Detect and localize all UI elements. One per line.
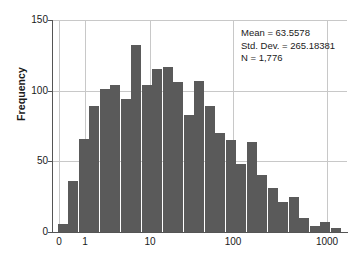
histogram-bar [215,133,225,232]
histogram-bar [131,45,141,232]
histogram-bar [184,115,194,232]
histogram-bar [100,89,110,232]
histogram-chart: Frequency 150 100 50 0 0 1 10 100 1000 M… [0,0,355,257]
histogram-bar [226,140,236,232]
y-tick-mark-100 [48,91,52,92]
histogram-bar [257,175,267,232]
x-tick-label-10: 10 [130,236,170,247]
histogram-bar [194,81,204,232]
histogram-bar [121,99,131,232]
y-tick-100: 100 [12,86,48,96]
x-tick-label-1000: 1000 [307,236,347,247]
histogram-bar [289,197,299,232]
histogram-bar [173,82,183,232]
histogram-bar [152,69,162,232]
histogram-bar [142,85,152,232]
x-tick-label-1: 1 [65,236,105,247]
histogram-bar [110,85,120,232]
histogram-bar [79,139,89,232]
y-tick-150: 150 [12,15,48,25]
annotation-mean: Mean = 63.5578 [241,27,335,40]
histogram-bar [299,218,309,232]
histogram-bar [68,181,78,232]
histogram-bar [58,224,68,232]
y-tick-50: 50 [12,156,48,166]
y-axis-line [52,20,53,233]
y-tick-mark-150 [48,20,52,21]
statistics-annotation: Mean = 63.5578 Std. Dev. = 265.18381 N =… [241,27,335,65]
y-tick-label-50: 50 [22,156,48,166]
histogram-bar [268,188,278,232]
y-tick-mark-50 [48,161,52,162]
histogram-bar [205,106,215,232]
y-tick-label-150: 150 [22,15,48,25]
x-tick-label-100: 100 [213,236,253,247]
histogram-bar [247,142,257,232]
histogram-bar [89,106,99,232]
x-axis-line [52,232,348,233]
y-tick-label-100: 100 [22,86,48,96]
histogram-bar [278,202,288,232]
annotation-std-dev: Std. Dev. = 265.18381 [241,40,335,53]
annotation-n: N = 1,776 [241,52,335,65]
histogram-bar [320,222,330,232]
histogram-bar [163,67,173,232]
y-tick-mark-0 [48,232,52,233]
histogram-bar [236,164,246,232]
